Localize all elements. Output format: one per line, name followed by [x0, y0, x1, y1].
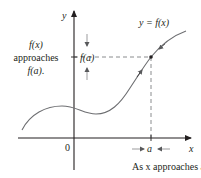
- left-note-line-2: approaches: [14, 52, 59, 63]
- left-note-line-1: f(x): [29, 39, 44, 51]
- limit-point: [149, 55, 153, 59]
- fa-label: f(a): [80, 52, 95, 64]
- origin-label: 0: [65, 142, 70, 153]
- curve-arrow-lower: [137, 70, 142, 77]
- x-axis-label: x: [188, 143, 194, 154]
- curve-label: y = f(x): [138, 17, 170, 29]
- bottom-note: As x approaches a,: [132, 161, 201, 172]
- function-curve: [22, 31, 186, 130]
- y-axis-label: y: [61, 10, 67, 21]
- limit-diagram: y x 0 y = f(x) f(a) a f(x) approaches f(…: [0, 0, 201, 178]
- left-note-line-3: f(a).: [28, 65, 45, 77]
- a-label: a: [147, 143, 152, 154]
